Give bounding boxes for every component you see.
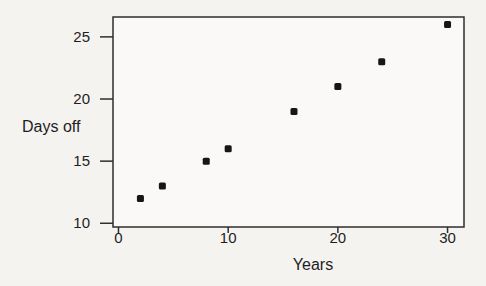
data-point	[378, 58, 385, 65]
data-point	[203, 158, 210, 165]
y-axis-tick-label: 10	[73, 214, 90, 231]
y-axis-tick-label: 20	[73, 90, 90, 107]
x-axis-label: Years	[293, 256, 333, 273]
data-point	[159, 182, 166, 189]
data-point	[225, 145, 232, 152]
y-axis-label: Days off	[22, 118, 81, 135]
scatter-chart: 010203010152025 Days off Years	[0, 0, 486, 286]
y-axis-tick-label: 25	[73, 28, 90, 45]
x-axis-tick-label: 20	[330, 229, 347, 246]
x-axis-tick-label: 0	[114, 229, 122, 246]
x-axis-tick-label: 10	[220, 229, 237, 246]
scatter-plot-canvas: 010203010152025 Days off Years	[0, 0, 486, 286]
y-axis-tick-label: 15	[73, 152, 90, 169]
data-point	[137, 195, 144, 202]
data-point	[444, 21, 451, 28]
plot-frame	[113, 17, 464, 227]
data-point	[334, 83, 341, 90]
data-point	[290, 108, 297, 115]
x-axis-tick-label: 30	[439, 229, 456, 246]
